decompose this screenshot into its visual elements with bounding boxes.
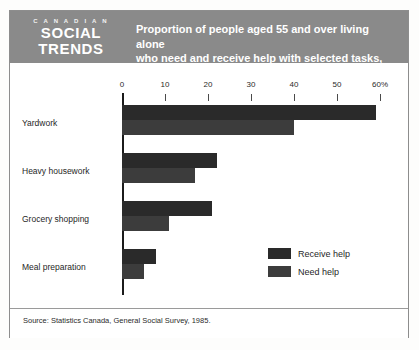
source-divider	[10, 308, 408, 309]
bar-heavy-housework-need-help	[122, 168, 195, 183]
chart-header-band: C A N A D I A N SOCIAL TRENDS Proportion…	[10, 11, 408, 63]
category-label-grocery-shopping: Grocery shopping	[22, 214, 118, 224]
bar-grocery-shopping-need-help	[122, 216, 169, 231]
category-label-heavy-housework: Heavy housework	[22, 166, 118, 176]
publication-logo: C A N A D I A N SOCIAL TRENDS	[23, 17, 119, 57]
axis-tick-60	[380, 94, 381, 101]
axis-tick-50	[337, 94, 338, 101]
axis-tick-40	[294, 94, 295, 101]
bar-heavy-housework-receive-help	[122, 153, 217, 168]
bar-meal-preparation-need-help	[122, 264, 144, 279]
chart-legend: Receive help Need help	[268, 246, 350, 282]
axis-tick-label-50: 50	[333, 80, 342, 89]
bar-yardwork-need-help	[122, 120, 294, 135]
bar-grocery-shopping-receive-help	[122, 201, 212, 216]
scanned-page: C A N A D I A N SOCIAL TRENDS Proportion…	[0, 0, 419, 350]
axis-tick-label-40: 40	[290, 80, 299, 89]
legend-entry-receive-help: Receive help	[268, 246, 350, 261]
axis-tick-label-60: 60%	[372, 80, 388, 89]
logo-word-trends: TRENDS	[23, 41, 119, 57]
axis-tick-label-0: 0	[120, 80, 124, 89]
legend-swatch-receive-help	[268, 248, 291, 259]
legend-entry-need-help: Need help	[268, 264, 350, 279]
axis-tick-30	[251, 94, 252, 101]
legend-label-need-help: Need help	[298, 267, 339, 277]
logo-word-social: SOCIAL	[23, 25, 119, 41]
source-note: Source: Statistics Canada, General Socia…	[23, 316, 210, 325]
chart-title-line-1: Proportion of people aged 55 and over li…	[136, 22, 398, 51]
axis-tick-label-20: 20	[204, 80, 213, 89]
legend-swatch-need-help	[268, 266, 291, 277]
chart-body: 0102030405060%YardworkHeavy houseworkGro…	[10, 63, 408, 338]
bar-meal-preparation-receive-help	[122, 249, 156, 264]
axis-tick-10	[165, 94, 166, 101]
category-label-meal-preparation: Meal preparation	[22, 262, 118, 272]
category-label-yardwork: Yardwork	[22, 118, 118, 128]
bar-yardwork-receive-help	[122, 105, 376, 120]
axis-tick-label-30: 30	[247, 80, 256, 89]
axis-tick-label-10: 10	[161, 80, 170, 89]
legend-label-receive-help: Receive help	[298, 249, 350, 259]
axis-tick-0	[122, 93, 124, 101]
figure-frame: C A N A D I A N SOCIAL TRENDS Proportion…	[9, 10, 409, 338]
axis-tick-20	[208, 94, 209, 101]
